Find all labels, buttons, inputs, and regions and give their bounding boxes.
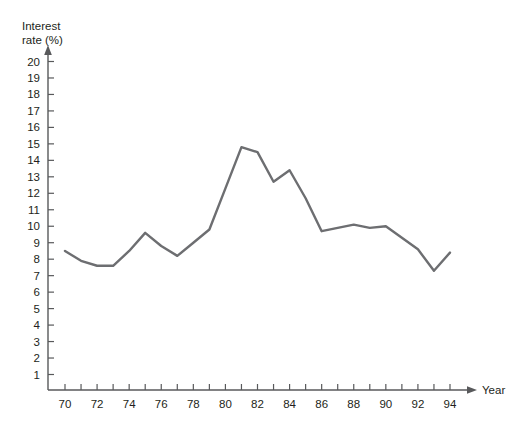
y-tick-label: 5 [34,303,40,315]
y-axis-ticks: 1234567891011121314151617181920 [27,56,54,381]
y-tick-label: 13 [27,171,40,183]
y-tick-label: 4 [34,319,41,331]
y-tick-label: 3 [34,336,40,348]
y-tick-label: 14 [27,154,40,166]
y-tick-label: 2 [34,352,40,364]
x-tick-label: 92 [412,398,425,410]
x-tick-label: 70 [59,398,72,410]
x-tick-label: 72 [91,398,104,410]
x-tick-label: 76 [155,398,168,410]
y-tick-label: 17 [27,105,40,117]
x-tick-label: 90 [379,398,392,410]
y-axis-arrow-icon [44,45,52,55]
x-axis-title: Year [482,384,505,396]
y-tick-label: 18 [27,88,40,100]
y-tick-label: 7 [34,270,40,282]
x-tick-label: 80 [219,398,232,410]
x-tick-label: 78 [187,398,200,410]
interest-rate-line-chart: Interest rate (%) Year 12345678910111213… [0,0,522,424]
x-axis-ticks: 70727476788082848688909294 [59,384,457,410]
y-tick-label: 15 [27,138,40,150]
chart-canvas: Interest rate (%) Year 12345678910111213… [0,0,522,424]
y-tick-label: 6 [34,286,40,298]
y-axis-title-line-1: Interest [22,20,61,32]
y-tick-label: 10 [27,220,40,232]
x-axis-title-label: Year [482,384,505,396]
y-axis-title-line-2: rate (%) [22,34,63,46]
x-tick-label: 82 [251,398,264,410]
y-tick-label: 9 [34,237,40,249]
y-tick-label: 20 [27,56,40,68]
y-tick-label: 12 [27,187,40,199]
x-tick-label: 86 [315,398,328,410]
y-axis-title: Interest rate (%) [22,20,63,46]
y-tick-label: 19 [27,72,40,84]
x-tick-label: 88 [347,398,360,410]
y-tick-label: 1 [34,369,40,381]
y-tick-label: 11 [28,204,40,216]
y-tick-label: 8 [34,253,40,265]
interest-rate-series-line [65,147,450,271]
x-tick-label: 74 [123,398,136,410]
x-axis-arrow-icon [467,386,477,394]
x-tick-label: 84 [283,398,296,410]
y-tick-label: 16 [27,121,40,133]
x-tick-label: 94 [444,398,457,410]
